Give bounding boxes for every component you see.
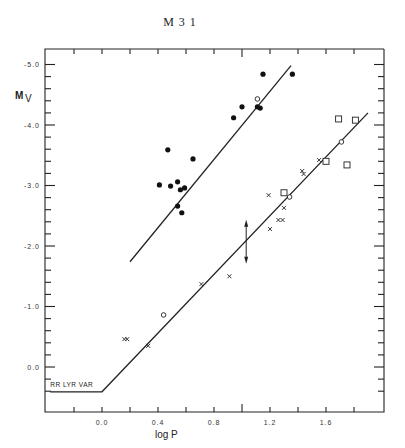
svg-text:M: M: [15, 90, 23, 101]
svg-text:1.6: 1.6: [320, 419, 333, 426]
svg-text:-1.0: -1.0: [24, 303, 40, 310]
svg-text:V: V: [25, 93, 32, 104]
y-axis-label: M V: [15, 90, 32, 104]
chart-title: M 3 1: [163, 15, 197, 29]
svg-text:-3.0: -3.0: [24, 182, 40, 189]
chart: M 3 1 0.00.40.81.21.6-5.0-4.0-3.0-2.0-1.…: [0, 0, 405, 448]
svg-text:-4.0: -4.0: [24, 122, 40, 129]
relation-lines: [50, 66, 368, 392]
annotations: RR LYR VAR: [50, 220, 248, 388]
data-points: [122, 72, 358, 348]
svg-text:RR LYR VAR: RR LYR VAR: [50, 381, 93, 388]
axis-ticks: 0.00.40.81.21.6-5.0-4.0-3.0-2.0-1.00.0: [24, 49, 384, 426]
svg-text:0.0: 0.0: [27, 364, 40, 371]
svg-text:1.2: 1.2: [264, 419, 277, 426]
svg-text:0.8: 0.8: [208, 419, 221, 426]
x-axis-label: log P: [155, 429, 178, 440]
svg-text:-5.0: -5.0: [24, 61, 40, 68]
svg-text:0.0: 0.0: [96, 419, 109, 426]
plot-frame: [45, 49, 384, 412]
svg-text:0.4: 0.4: [152, 419, 165, 426]
svg-text:-2.0: -2.0: [24, 243, 40, 250]
